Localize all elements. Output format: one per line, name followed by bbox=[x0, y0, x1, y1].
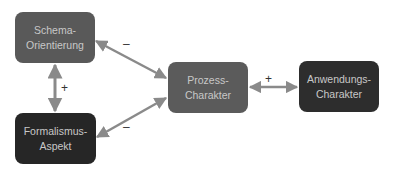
node-label-line1: Formalismus- bbox=[24, 124, 88, 139]
node-schema-orientierung: Schema- Orientierung bbox=[15, 12, 95, 63]
edge-label-schema-formalismus: + bbox=[61, 82, 68, 94]
edge-schema-prozess bbox=[96, 41, 166, 78]
node-formalismus-aspekt: Formalismus- Aspekt bbox=[15, 113, 96, 164]
node-label-line1: Prozess- bbox=[185, 73, 231, 88]
edge-label-formalismus-prozess: – bbox=[123, 121, 130, 133]
node-label-line2: Orientierung bbox=[26, 38, 84, 53]
node-anwendungs-charakter: Anwendungs- Charakter bbox=[299, 61, 379, 112]
node-label-line1: Anwendungs- bbox=[307, 72, 371, 87]
edge-label-schema-prozess: – bbox=[123, 38, 130, 50]
node-label-line2: Charakter bbox=[185, 88, 231, 103]
node-label-line1: Schema- bbox=[26, 23, 84, 38]
node-label-line2: Aspekt bbox=[24, 139, 88, 154]
edge-label-prozess-anwendung: + bbox=[265, 73, 272, 85]
node-label-line2: Charakter bbox=[307, 87, 371, 102]
node-prozess-charakter: Prozess- Charakter bbox=[168, 62, 248, 113]
edge-formalismus-prozess bbox=[97, 98, 166, 137]
